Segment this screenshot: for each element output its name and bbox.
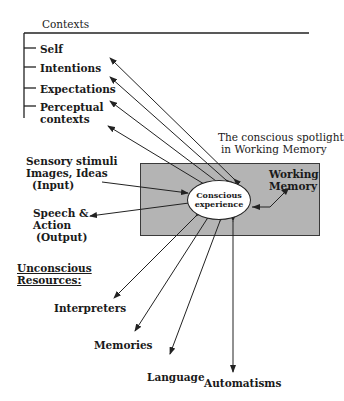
unconscious-header-1: Unconscious: [17, 262, 92, 274]
resource-language: Language: [147, 371, 205, 383]
input-line2: Images, Ideas: [26, 167, 108, 179]
arrow-intentions: [110, 77, 226, 180]
center-node-line2: experience: [195, 200, 244, 209]
output-line2: Action: [33, 219, 71, 231]
input-line3: (Input): [32, 179, 74, 191]
arrow-memories: [135, 219, 207, 331]
output-line3: (Output): [36, 231, 87, 243]
resource-interpreters: Interpreters: [54, 302, 126, 314]
output-line1: Speech &: [33, 207, 88, 219]
unconscious-header-2: Resources:: [17, 274, 81, 286]
context-intentions: Intentions: [40, 62, 101, 74]
conscious-experience-node: Conscious experience: [187, 180, 251, 220]
arrow-language: [170, 221, 220, 354]
arrow-perceptual: [108, 126, 204, 184]
arrow-interpreters: [114, 216, 196, 298]
spotlight-caption-line2: in Working Memory: [221, 143, 327, 155]
resource-memories: Memories: [94, 339, 153, 351]
input-line1: Sensory stimuli: [26, 155, 118, 167]
arrow-working-memory: [252, 190, 287, 207]
context-self: Self: [40, 43, 63, 55]
context-expectations: Expectations: [40, 83, 116, 95]
context-perceptual-2: contexts: [40, 113, 90, 125]
resource-automatisms: Automatisms: [204, 377, 281, 389]
contexts-title: Contexts: [42, 18, 89, 30]
spotlight-caption-line1: The conscious spotlight: [218, 131, 344, 143]
arrow-expectations: [110, 101, 216, 181]
context-perceptual: Perceptual: [40, 101, 104, 113]
arrow-self: [110, 58, 234, 179]
working-memory-label-2: Memory: [269, 180, 317, 192]
working-memory-label-1: Working: [269, 168, 319, 180]
arrow-input: [102, 182, 188, 193]
arrow-output: [90, 203, 189, 216]
